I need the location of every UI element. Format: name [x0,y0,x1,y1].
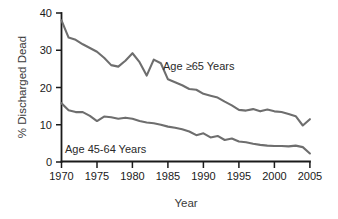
y-tick-label-20: 20 [40,82,52,94]
y-axis-title: % Discharged Dead [16,36,28,138]
x-tick-label-2000: 2000 [262,170,286,182]
x-tick-label-1985: 1985 [156,170,180,182]
x-tick-label-1990: 1990 [191,170,215,182]
y-tick-label-10: 10 [40,119,52,131]
chart-background [0,0,338,219]
series-annotation-age-45-64: Age 45-64 Years [65,143,147,155]
y-tick-label-30: 30 [40,44,52,56]
x-tick-label-1980: 1980 [120,170,144,182]
x-tick-label-1975: 1975 [85,170,109,182]
series-annotation-age-65-plus: Age ≥65 Years [163,60,235,72]
x-tick-label-2005: 2005 [298,170,322,182]
line-chart-canvas: 40 30 20 10 0 1970 1975 1980 1985 1990 1… [0,0,338,219]
chart-figure: 40 30 20 10 0 1970 1975 1980 1985 1990 1… [0,0,338,219]
y-tick-label-40: 40 [40,7,52,19]
x-tick-label-1995: 1995 [227,170,251,182]
y-tick-label-0: 0 [46,156,52,168]
x-tick-label-1970: 1970 [49,170,73,182]
x-axis-title: Year [174,197,197,209]
